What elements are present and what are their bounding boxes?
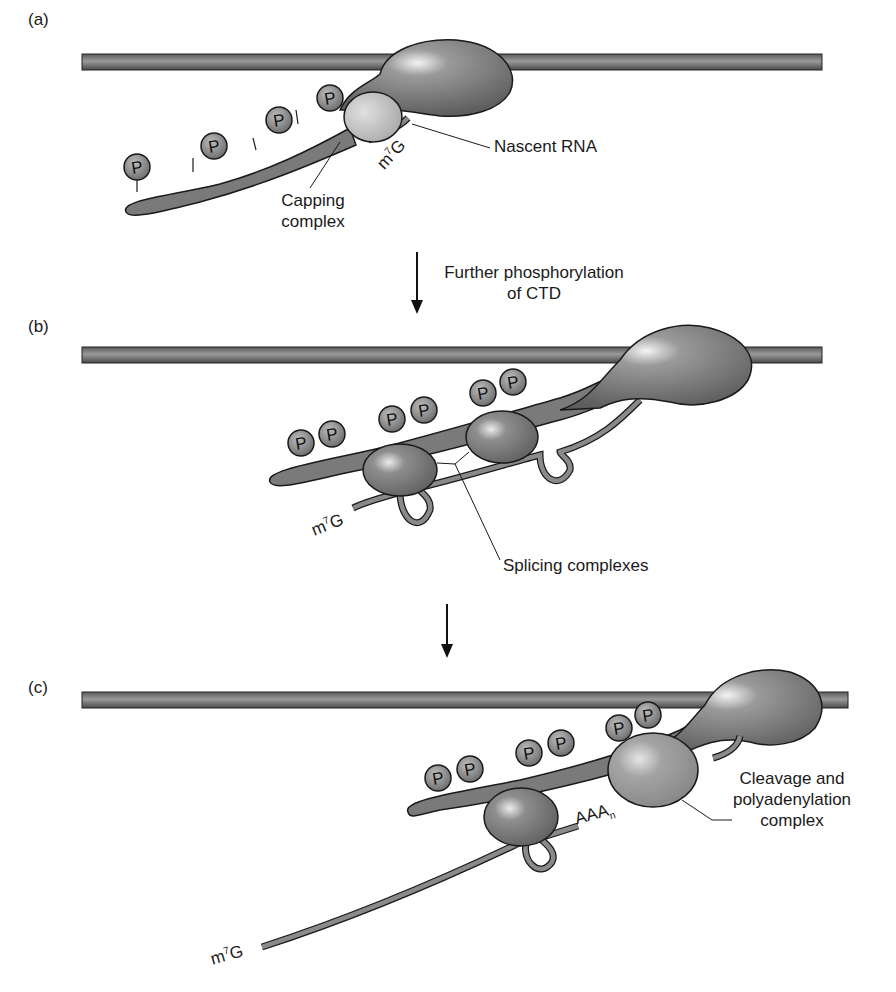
nascent-rna-label: Nascent RNA bbox=[494, 136, 597, 157]
rna-processing-diagram: P P P P bbox=[0, 0, 896, 992]
cleavage-polyadenylation-label: Cleavage and polyadenylation complex bbox=[722, 768, 862, 831]
splicing-complex-1 bbox=[363, 444, 437, 496]
capping-complex-label: Capping complex bbox=[258, 190, 368, 232]
panel-label-a: (a) bbox=[28, 10, 49, 30]
panel-label-c: (c) bbox=[28, 678, 48, 698]
transition-arrow-a-b bbox=[411, 252, 423, 314]
phosphate-group: P P P P bbox=[124, 85, 343, 192]
splicing-complex bbox=[484, 788, 558, 846]
panel-a: P P P P bbox=[82, 40, 822, 215]
splicing-complexes-label: Splicing complexes bbox=[503, 555, 649, 576]
transition-label: Further phosphorylation of CTD bbox=[424, 262, 644, 304]
rna-polymerase bbox=[560, 325, 752, 410]
panel-b: P P P P P P bbox=[82, 325, 822, 560]
cleavage-polyadenylation-complex bbox=[608, 733, 698, 807]
transition-arrow-b-c bbox=[441, 604, 453, 658]
splicing-complex-2 bbox=[466, 411, 538, 463]
panel-label-b: (b) bbox=[28, 317, 49, 337]
